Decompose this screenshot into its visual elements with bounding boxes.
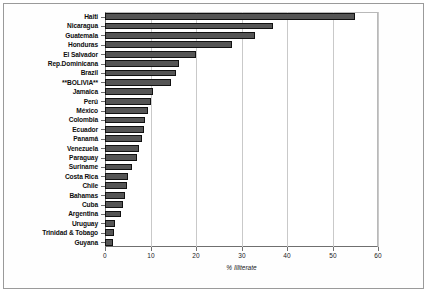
category-label: Guyana (0, 238, 98, 247)
bar-row: Costa Rica (0, 172, 427, 181)
category-label: México (0, 106, 98, 115)
bar-row: México (0, 106, 427, 115)
bar-row: Jamaica (0, 87, 427, 96)
bar-row: Paraguay (0, 153, 427, 162)
bar-row: Suriname (0, 162, 427, 171)
bar-row: Uruguay (0, 219, 427, 228)
category-label: Jamaica (0, 87, 98, 96)
bar-row: Brazil (0, 68, 427, 77)
bar (105, 126, 144, 133)
bar-row: Ecuador (0, 125, 427, 134)
bar-row: Chile (0, 181, 427, 190)
x-tick-label-40: 40 (267, 252, 307, 259)
bar-row: Trinidad & Tobago (0, 228, 427, 237)
bar (105, 88, 153, 95)
bar-row: Colombia (0, 115, 427, 124)
x-tick-30 (242, 247, 243, 251)
bar (105, 60, 179, 67)
bar-row: Haiti (0, 12, 427, 21)
bar-row: El Salvador (0, 50, 427, 59)
bar-row: Panamá (0, 134, 427, 143)
bar (105, 70, 176, 77)
bar (105, 201, 123, 208)
bar (105, 239, 113, 246)
category-label: Ecuador (0, 125, 98, 134)
category-label: Rep.Dominicana (0, 59, 98, 68)
chart-figure: 0102030405060 HaitiNicaraguaGuatemalaHon… (0, 0, 427, 292)
bar (105, 211, 121, 218)
bar (105, 229, 114, 236)
category-label: Cuba (0, 200, 98, 209)
bar (105, 173, 128, 180)
category-label: Haiti (0, 12, 98, 21)
bar (105, 107, 148, 114)
bar-row: Bahamas (0, 191, 427, 200)
category-label: Venezuela (0, 144, 98, 153)
category-label: Chile (0, 181, 98, 190)
category-label: Costa Rica (0, 172, 98, 181)
x-tick-label-20: 20 (176, 252, 216, 259)
bar (105, 98, 151, 105)
x-tick-60 (378, 247, 379, 251)
bar (105, 13, 355, 20)
bar (105, 79, 171, 86)
x-tick-label-0: 0 (85, 252, 125, 259)
category-label: Perú (0, 97, 98, 106)
category-label: Panamá (0, 134, 98, 143)
bar-row: Nicaragua (0, 21, 427, 30)
category-label: Brazil (0, 68, 98, 77)
x-axis-title: % Illiterate (105, 264, 378, 271)
bar-row: Honduras (0, 40, 427, 49)
category-label: Uruguay (0, 219, 98, 228)
bar (105, 23, 273, 30)
bar (105, 182, 127, 189)
x-tick-20 (196, 247, 197, 251)
x-tick-label-10: 10 (131, 252, 171, 259)
bar-row: **BOLIVIA** (0, 78, 427, 87)
bar-row: Perú (0, 97, 427, 106)
category-label: Guatemala (0, 31, 98, 40)
x-tick-0 (105, 247, 106, 251)
category-label: Honduras (0, 40, 98, 49)
x-tick-40 (287, 247, 288, 251)
bar (105, 164, 132, 171)
x-tick-10 (151, 247, 152, 251)
bar (105, 117, 145, 124)
bar-row: Cuba (0, 200, 427, 209)
category-label: Argentina (0, 209, 98, 218)
category-label: Trinidad & Tobago (0, 228, 98, 237)
category-label: Colombia (0, 115, 98, 124)
bar-row: Guyana (0, 238, 427, 247)
x-tick-label-60: 60 (358, 252, 398, 259)
x-tick-label-50: 50 (313, 252, 353, 259)
bar (105, 41, 232, 48)
bar-row: Argentina (0, 209, 427, 218)
category-label: Nicaragua (0, 21, 98, 30)
category-label: Paraguay (0, 153, 98, 162)
bar (105, 220, 115, 227)
category-label: Bahamas (0, 191, 98, 200)
x-tick-label-30: 30 (222, 252, 262, 259)
bar (105, 145, 139, 152)
bar (105, 51, 196, 58)
bar (105, 192, 125, 199)
x-tick-50 (333, 247, 334, 251)
bar (105, 32, 255, 39)
bar-row: Rep.Dominicana (0, 59, 427, 68)
bar-row: Venezuela (0, 144, 427, 153)
category-label: **BOLIVIA** (0, 78, 98, 87)
bar (105, 154, 137, 161)
bar (105, 135, 142, 142)
bar-row: Guatemala (0, 31, 427, 40)
category-label: Suriname (0, 162, 98, 171)
category-label: El Salvador (0, 50, 98, 59)
